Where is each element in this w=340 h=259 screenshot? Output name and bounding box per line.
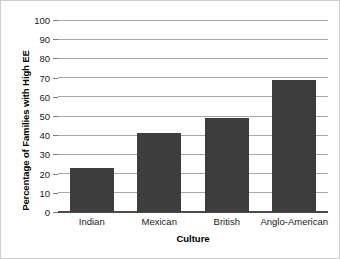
x-axis-tick-label: Anglo-American: [260, 216, 328, 227]
y-axis-tick-label: 40: [39, 130, 50, 141]
y-axis-tick: [53, 97, 58, 98]
x-axis-title: Culture: [58, 233, 328, 244]
y-axis-tick-label: 50: [39, 111, 50, 122]
y-axis-title: Percentage of Families with High EE: [17, 1, 33, 259]
gridline: [58, 39, 328, 40]
y-axis-tick: [53, 20, 58, 21]
gridline: [58, 20, 328, 21]
y-axis-tick-label: 0: [45, 207, 50, 218]
gridline: [58, 77, 328, 78]
y-axis-tick-label: 80: [39, 53, 50, 64]
y-axis-tick: [53, 174, 58, 175]
y-axis-tick-label: 30: [39, 149, 50, 160]
y-axis-tick-label: 20: [39, 168, 50, 179]
y-axis-tick: [53, 58, 58, 59]
bar: [137, 133, 181, 212]
y-axis-tick-label: 60: [39, 91, 50, 102]
x-axis-tick-label: Indian: [79, 216, 105, 227]
y-axis-tick-label: 10: [39, 187, 50, 198]
x-axis-tick-label: British: [214, 216, 240, 227]
y-axis-tick: [53, 39, 58, 40]
y-axis-tick-label: 100: [34, 15, 50, 26]
gridline: [58, 58, 328, 59]
y-axis-tick: [53, 193, 58, 194]
y-axis-tick: [53, 154, 58, 155]
bar: [70, 168, 114, 212]
plot-area: 0102030405060708090100IndianMexicanBriti…: [58, 20, 328, 212]
y-axis-tick: [53, 78, 58, 79]
y-axis-tick: [53, 212, 58, 213]
bar: [205, 118, 249, 212]
bar: [272, 80, 316, 212]
y-axis-tick-label: 90: [39, 34, 50, 45]
y-axis-tick-label: 70: [39, 72, 50, 83]
x-axis-tick-label: Mexican: [142, 216, 177, 227]
bar-chart-figure: Percentage of Families with High EE 0102…: [0, 0, 340, 259]
y-axis-tick: [53, 116, 58, 117]
y-axis-tick: [53, 135, 58, 136]
